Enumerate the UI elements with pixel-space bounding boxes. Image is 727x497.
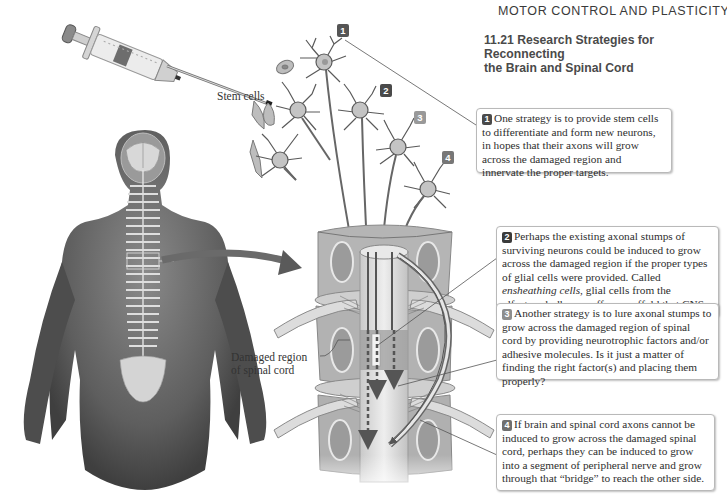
- callout-strategy-1: 1One strategy is to provide stem cells t…: [476, 108, 672, 173]
- callout-text: If brain and spinal cord axons cannot be…: [502, 418, 704, 484]
- callout-strategy-4: 4If brain and spinal cord axons cannot b…: [496, 414, 715, 491]
- running-head-title: MOTOR CONTROL AND PLASTICITY: [498, 4, 727, 18]
- callout-text: Another strategy is to lure axonal stump…: [502, 307, 711, 387]
- step-badge-3: 3: [414, 111, 426, 124]
- damaged-region-label: Damaged region of spinal cord: [231, 351, 321, 377]
- stem-cells-label: Stem cells: [217, 90, 265, 103]
- callout-number-badge: 4: [502, 420, 512, 431]
- callout-italic-term: ensheathing cells,: [502, 284, 583, 296]
- figure-title-line2: the Brain and Spinal Cord: [484, 61, 727, 75]
- callout-text: Perhaps the existing axonal stumps of su…: [502, 230, 707, 283]
- step-badge-1: 1: [337, 24, 349, 37]
- callout-text: One strategy is to provide stem cells to…: [482, 112, 658, 178]
- figure-title-line1: 11.21 Research Strategies for Reconnecti…: [484, 33, 727, 61]
- step-badge-2: 2: [380, 84, 392, 97]
- damaged-region-label-line1: Damaged region: [231, 351, 321, 364]
- callout-number-badge: 1: [482, 114, 492, 125]
- human-back-illustration: [24, 130, 267, 490]
- step-badge-4: 4: [442, 151, 454, 164]
- callout-strategy-3: 3Another strategy is to lure axonal stum…: [496, 303, 719, 380]
- callout-number-badge: 2: [502, 232, 512, 243]
- damaged-region-label-line2: of spinal cord: [231, 364, 321, 377]
- callout-number-badge: 3: [502, 309, 512, 320]
- running-head: MOTOR CONTROL AND PLASTICITY 349: [498, 4, 727, 18]
- figure-title: 11.21 Research Strategies for Reconnecti…: [484, 33, 727, 75]
